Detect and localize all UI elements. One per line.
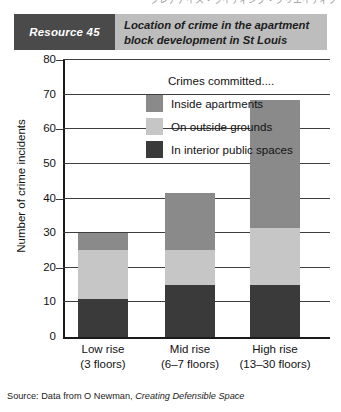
y-tick-label-60: 60 [30,122,56,134]
stacked-bar-chart: Number of crime incidents 01020304050607… [0,52,341,352]
bar-segment-1 [165,250,215,285]
clipped-page-text: クレアアイス・ライティング・クリエイティブ [150,0,340,7]
source-prefix: Source: Data from O Newman, [7,391,133,401]
x-label-high-rise: High rise(13–30 floors) [227,342,323,371]
x-label-sub: (13–30 floors) [227,357,323,372]
legend-title: Crimes committed.... [168,74,341,87]
x-label-main: Low rise [55,342,151,357]
x-label-sub: (3 floors) [55,357,151,372]
legend-label: In interior public spaces [171,143,293,156]
y-axis-tick-labels: 01020304050607080 [0,60,56,338]
y-tick-mark-60 [56,129,63,130]
y-tick-label-80: 80 [30,53,56,65]
x-label-sub: (6–7 floors) [142,357,238,372]
bar-segment-2 [78,233,128,250]
bar-segment-2 [165,193,215,250]
bar-segment-1 [250,228,300,285]
y-tick-label-70: 70 [30,88,56,100]
legend-item: On outside grounds [146,115,341,138]
y-tick-label-30: 30 [30,226,56,238]
bar-segment-0 [250,285,300,337]
legend-label: Inside apartments [171,97,263,110]
bar-low-rise [78,233,128,337]
plot-area: Crimes committed.... Inside apartmentsOn… [63,60,330,337]
y-tick-label-40: 40 [30,192,56,204]
legend-swatch-icon [146,118,163,135]
resource-title: Location of crime in the apartment block… [115,14,327,50]
x-axis-line [63,337,330,339]
legend-swatch-icon [146,95,163,112]
y-tick-mark-80 [56,60,63,61]
legend-item: Inside apartments [146,92,341,115]
bar-segment-0 [165,285,215,337]
resource-banner: Resource 45 Location of crime in the apa… [14,14,327,50]
chart-legend: Crimes committed.... Inside apartmentsOn… [146,74,341,161]
y-tick-label-10: 10 [30,295,56,307]
legend-item: In interior public spaces [146,138,341,161]
x-label-main: High rise [227,342,323,357]
bar-mid-rise [165,193,215,337]
bar-segment-1 [78,250,128,298]
x-label-main: Mid rise [142,342,238,357]
y-tick-label-20: 20 [30,261,56,273]
legend-rows: Inside apartmentsOn outside groundsIn in… [146,92,341,161]
resource-number-badge: Resource 45 [14,14,115,50]
x-axis-category-labels: Low rise(3 floors)Mid rise(6–7 floors)Hi… [63,342,330,382]
y-tick-mark-20 [56,268,63,269]
x-label-mid-rise: Mid rise(6–7 floors) [142,342,238,371]
legend-swatch-icon [146,141,163,158]
y-tick-label-0: 0 [30,330,56,342]
y-tick-label-50: 50 [30,157,56,169]
y-tick-mark-40 [56,199,63,200]
bar-segment-0 [78,299,128,337]
source-book-title: Creating Defensible Space [135,391,244,401]
source-note: Source: Data from O Newman, Creating Def… [7,391,244,401]
gridline-80 [63,59,330,60]
legend-label: On outside grounds [171,120,272,133]
x-label-low-rise: Low rise(3 floors) [55,342,151,371]
